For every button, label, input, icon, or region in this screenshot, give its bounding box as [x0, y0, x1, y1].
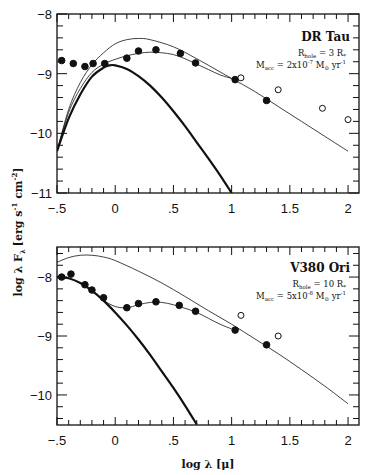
data-point-filled	[263, 342, 270, 349]
annotation-v380-ori: V380 Ori Rhole = 10 R* Macc = 5x10-8 M⊙ …	[256, 261, 350, 302]
m-acc-label: Macc = 5x10-8 M⊙ yr-1	[256, 290, 346, 302]
data-point-filled	[58, 57, 65, 64]
x-tick-label: 1	[228, 201, 235, 216]
data-point-open	[238, 312, 244, 318]
x-tick-label: 1.5	[281, 201, 299, 216]
data-point-filled	[90, 60, 97, 67]
data-point-filled	[263, 97, 270, 104]
y-axis-title: log λ Fλ[erg s-1 cm-2]	[10, 168, 27, 297]
data-point-open	[238, 75, 244, 81]
data-point-filled	[135, 300, 142, 307]
y-tick-label: −8	[37, 270, 52, 285]
y-tick-label: −11	[31, 186, 52, 201]
x-tick-label: 0	[112, 433, 119, 448]
sed-figure: −.50.511.52−8−9−10−11 −.50.511.52−8−9−10…	[0, 0, 367, 475]
data-point-filled	[101, 60, 108, 67]
x-tick-label: 0	[112, 201, 119, 216]
y-tick-label: −10	[30, 388, 52, 403]
x-tick-label: −.5	[48, 433, 66, 448]
data-point-filled	[176, 302, 183, 309]
data-point-filled	[192, 60, 199, 67]
data-point-filled	[70, 60, 77, 67]
y-tick-label: −8	[37, 7, 52, 22]
data-point-filled	[68, 271, 75, 278]
data-point-filled	[192, 308, 199, 315]
data-point-filled	[58, 274, 65, 281]
x-axis-title: log λ [μ]	[181, 458, 234, 471]
data-point-filled	[177, 50, 184, 57]
photosphere-curve	[57, 277, 197, 424]
x-tick-label: 2	[344, 433, 351, 448]
star-name: DR Tau	[301, 30, 350, 44]
data-point-open	[275, 87, 281, 93]
star-name: V380 Ori	[289, 261, 350, 275]
r-hole-label: Rhole = 3 R*	[298, 48, 346, 59]
m-acc-label: Macc = 2x10-7 M⊙ yr-1	[256, 59, 346, 71]
x-tick-label: 1	[228, 433, 235, 448]
x-tick-label: 2	[344, 201, 351, 216]
model-curve	[104, 301, 232, 329]
data-point-filled	[89, 287, 96, 294]
data-point-filled	[135, 48, 142, 55]
x-tick-label: .5	[168, 433, 179, 448]
y-tick-label: −10	[30, 126, 52, 141]
model-curve	[57, 255, 348, 404]
data-point-filled	[124, 55, 131, 62]
y-tick-label: −9	[37, 67, 52, 82]
data-point-open	[275, 333, 281, 339]
data-point-open	[345, 117, 351, 123]
x-tick-label: −.5	[48, 201, 66, 216]
data-point-filled	[232, 76, 239, 83]
r-hole-label: Rhole = 10 R*	[293, 279, 347, 290]
x-tick-label: .5	[168, 201, 179, 216]
data-point-filled	[153, 47, 160, 54]
data-point-open	[319, 105, 325, 111]
data-point-filled	[153, 299, 160, 306]
panel-v380-ori: −.50.511.52−8−9−10	[30, 247, 359, 448]
data-point-filled	[82, 63, 89, 70]
annotation-dr-tau: DR Tau Rhole = 3 R* Macc = 2x10-7 M⊙ yr-…	[256, 30, 350, 71]
x-tick-label: 1.5	[281, 433, 299, 448]
data-point-filled	[232, 327, 239, 334]
data-point-filled	[82, 281, 89, 288]
data-point-filled	[100, 294, 107, 301]
data-point-filled	[124, 304, 131, 311]
svg-text:log λ Fλ[erg s-1 cm-2]: log λ Fλ[erg s-1 cm-2]	[10, 168, 27, 297]
y-tick-label: −9	[37, 329, 52, 344]
